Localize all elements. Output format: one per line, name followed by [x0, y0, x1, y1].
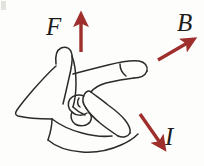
force-label: F — [46, 14, 61, 39]
index-finger-top-edge — [73, 61, 147, 74]
current-label: I — [165, 124, 173, 149]
magnetic-field-arrow — [158, 42, 189, 60]
middle-finger-left-edge — [91, 92, 130, 133]
thumb-outline — [56, 47, 73, 104]
hand-diagram-canvas — [0, 0, 204, 166]
index-finger-bottom-edge — [91, 78, 134, 92]
magnetic-field-label: B — [177, 10, 192, 35]
palm-inner-line — [52, 119, 112, 136]
index-finger-tip — [134, 71, 147, 78]
middle-finger-tip — [118, 133, 130, 137]
thumb-inner-edge — [72, 56, 76, 107]
current-arrow — [140, 114, 161, 144]
index-finger-crease — [120, 64, 126, 76]
palm-left-edge — [16, 66, 56, 119]
hand-outline — [16, 47, 148, 152]
right-hand-rule-figure: F B I — [0, 0, 204, 166]
ring-finger-knuckle-crease — [78, 98, 80, 107]
palm-bottom-edge — [48, 119, 52, 140]
middle-finger-knuckle — [83, 91, 91, 108]
